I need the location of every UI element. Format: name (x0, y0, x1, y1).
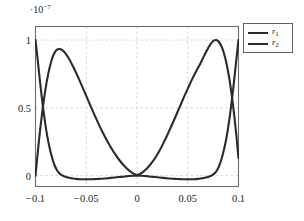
legend-swatch-r1 (248, 32, 268, 34)
legend-label-r2-sub: 2 (276, 41, 279, 48)
x-tick-label-2: 0 (134, 193, 139, 204)
legend-item-r2: r2 (248, 38, 288, 49)
legend-label-r1-sub: 1 (276, 30, 279, 37)
x-tick-label-4: 0.1 (232, 193, 245, 204)
x-tick-label-0: −0.1 (26, 193, 45, 204)
legend-item-r1: r1 (248, 27, 288, 38)
legend-swatch-r2 (248, 43, 268, 45)
legend-label-r1: r1 (272, 27, 279, 37)
x-tick-label-3: 0.05 (179, 193, 197, 204)
chart-figure: ·10−7 00.51 −0.1−0.0500.050.1 r1 r2 (0, 0, 304, 221)
chart-legend: r1 r2 (243, 23, 293, 53)
legend-label-r2: r2 (272, 38, 279, 48)
x-tick-label-1: −0.05 (74, 193, 98, 204)
